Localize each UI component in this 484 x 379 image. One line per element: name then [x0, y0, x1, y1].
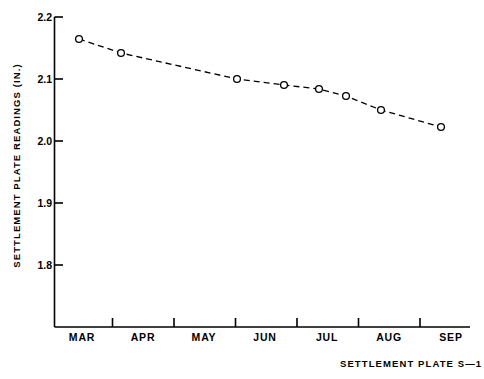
data-point[interactable]	[234, 76, 241, 83]
chart-figure: SETTLEMENT PLATE READINGS (IN.) 2.2 2.1 …	[0, 0, 484, 379]
data-point[interactable]	[118, 50, 125, 57]
y-axis-ticks	[55, 17, 64, 265]
data-point[interactable]	[438, 124, 445, 131]
data-point[interactable]	[281, 82, 288, 89]
data-point[interactable]	[316, 86, 323, 93]
data-line-settlement-plate-s1	[79, 39, 441, 127]
data-point[interactable]	[343, 93, 350, 100]
data-point[interactable]	[76, 36, 83, 43]
x-axis-ticks	[113, 318, 421, 327]
data-point[interactable]	[378, 107, 385, 114]
plot-area	[0, 0, 484, 379]
data-markers	[76, 36, 445, 131]
